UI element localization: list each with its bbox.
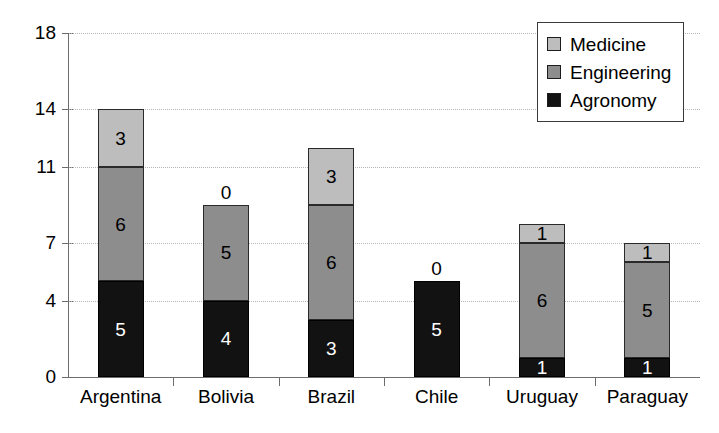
bar-segment-agronomy: 5 <box>98 281 144 377</box>
y-axis-line <box>68 33 69 377</box>
x-axis-category-label: Argentina <box>68 386 173 408</box>
x-axis-category-label: Bolivia <box>173 386 278 408</box>
bar-segment-value: 1 <box>537 224 548 243</box>
y-axis-tick-label: 18 <box>35 22 56 44</box>
bar-segment-value-zero: 0 <box>414 259 460 278</box>
bar-segment-engineering: 5 <box>203 205 249 301</box>
gridline <box>68 167 700 168</box>
bar-segment-value: 4 <box>221 329 232 348</box>
bar-segment-agronomy: 1 <box>519 358 565 377</box>
bar-segment-agronomy: 3 <box>308 320 354 377</box>
bar-segment-value: 5 <box>221 243 232 262</box>
bar-segment-value: 3 <box>115 129 126 148</box>
bar-segment-agronomy: 4 <box>203 301 249 377</box>
bar-segment-value: 1 <box>642 358 653 377</box>
bar-segment-medicine: 3 <box>98 109 144 166</box>
bar-stack: 151 <box>624 33 670 377</box>
bar-segment-value: 1 <box>537 358 548 377</box>
bar-segment-agronomy: 1 <box>624 358 670 377</box>
bar-stack: 450 <box>203 33 249 377</box>
stacked-bar-chart: 047111418 MedicineEngineeringAgronomy 56… <box>0 0 719 433</box>
bar-segment-value: 5 <box>642 301 653 320</box>
y-axis-tick-label: 4 <box>45 290 56 312</box>
bar-segment-medicine: 1 <box>519 224 565 243</box>
bar-segment-engineering: 6 <box>519 243 565 358</box>
bar-segment-engineering: 6 <box>98 167 144 282</box>
bar-segment-agronomy: 5 <box>414 281 460 377</box>
bar-segment-engineering: 6 <box>308 205 354 320</box>
bar-segment-value: 6 <box>537 291 548 310</box>
bar-stack: 161 <box>519 33 565 377</box>
bar-segment-value-zero: 0 <box>203 183 249 202</box>
bar-segment-value: 1 <box>642 243 653 262</box>
bar-segment-value: 5 <box>431 320 442 339</box>
x-axis-category-label: Chile <box>384 386 489 408</box>
bar-segment-engineering: 5 <box>624 262 670 358</box>
y-axis-tick-label: 0 <box>45 366 56 388</box>
bar-segment-value: 6 <box>115 215 126 234</box>
bar-stack: 363 <box>308 33 354 377</box>
x-axis-tick-mark <box>595 377 596 386</box>
x-axis-category-label: Paraguay <box>595 386 700 408</box>
gridline <box>68 243 700 244</box>
bar-segment-medicine: 1 <box>624 243 670 262</box>
y-axis-tick-label: 7 <box>45 232 56 254</box>
bar-segment-medicine: 3 <box>308 148 354 205</box>
x-axis-tick-mark <box>279 377 280 386</box>
bar-segment-value: 3 <box>326 167 337 186</box>
bar-segment-value: 6 <box>326 253 337 272</box>
x-axis-tick-mark <box>489 377 490 386</box>
bar-stack: 50 <box>414 33 460 377</box>
gridline <box>68 301 700 302</box>
x-axis-category-label: Uruguay <box>489 386 594 408</box>
bar-segment-value: 3 <box>326 339 337 358</box>
y-axis-tick-label: 11 <box>36 156 56 178</box>
x-axis-tick-mark <box>384 377 385 386</box>
x-axis-category-label: Brazil <box>279 386 384 408</box>
bar-segment-value: 5 <box>115 320 126 339</box>
bar-stack: 563 <box>98 33 144 377</box>
x-axis-tick-mark <box>173 377 174 386</box>
y-axis-tick-label: 14 <box>35 98 56 120</box>
